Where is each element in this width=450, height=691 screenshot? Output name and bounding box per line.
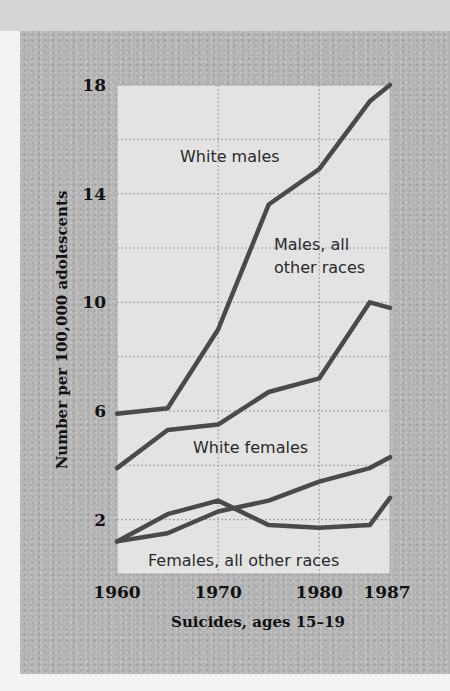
x-tick-label: 1960 [93,582,140,602]
x-tick-label: 1980 [296,582,343,602]
label-males-other-races-line1: Males, all [274,235,349,254]
label-white-females: White females [193,438,308,457]
y-axis-ticks: 26101418 [82,75,106,530]
y-axis-title: Number per 100,000 adolescents [53,191,71,470]
x-tick-label: 1970 [194,582,241,602]
x-tick-label: 1987 [363,582,410,602]
label-males-other-races-line2: other races [274,258,365,277]
x-axis-title: Suicides, ages 15–19 [171,613,345,631]
y-tick-label: 14 [82,184,106,204]
y-tick-label: 10 [82,292,106,312]
label-white-males: White males [180,147,280,166]
y-tick-label: 18 [82,75,106,95]
line-chart: 26101418 1960197019801987 Number per 100… [0,0,450,691]
label-females-other-races: Females, all other races [148,551,339,570]
x-axis-ticks: 1960197019801987 [93,582,410,602]
y-tick-label: 6 [94,401,106,421]
y-tick-label: 2 [94,510,106,530]
